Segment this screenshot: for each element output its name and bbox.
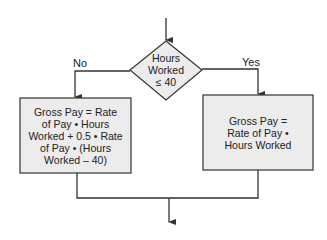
process-no-text: Gross Pay = Rate of Pay • Hours Worked +… xyxy=(20,98,131,173)
decision-text: Hours Worked ≤ 40 xyxy=(136,49,196,91)
no-label: No xyxy=(73,57,87,69)
process-no-line: Worked + 0.5 • Rate xyxy=(28,130,122,142)
process-no-line: of Pay • Hours xyxy=(42,118,109,130)
no-branch-connector xyxy=(75,71,130,97)
process-yes-line: Rate of Pay • xyxy=(227,127,288,139)
decision-line: ≤ 40 xyxy=(156,76,176,88)
process-no-line: of Pay • (Hours xyxy=(40,142,111,154)
process-yes-line: Gross Pay = xyxy=(229,115,287,127)
yes-label: Yes xyxy=(242,56,260,68)
merge-connector xyxy=(77,170,258,198)
decision-line: Hours xyxy=(152,52,180,64)
process-no-line: Worked – 40) xyxy=(44,154,107,166)
process-no-line: Gross Pay = Rate xyxy=(34,106,117,118)
decision-line: Worked xyxy=(148,64,184,76)
yes-branch-connector xyxy=(202,69,258,94)
process-yes-text: Gross Pay = Rate of Pay • Hours Worked xyxy=(203,95,313,170)
process-yes-line: Hours Worked xyxy=(225,139,292,151)
